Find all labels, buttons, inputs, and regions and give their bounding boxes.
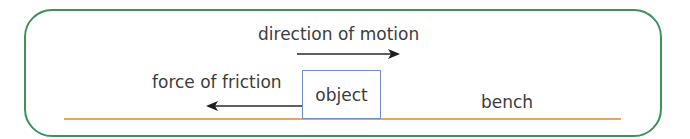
object-box: object (302, 70, 381, 119)
motion-label: direction of motion (258, 24, 419, 44)
friction-label: force of friction (152, 72, 282, 92)
bench-label: bench (481, 92, 533, 112)
object-label: object (315, 85, 367, 105)
